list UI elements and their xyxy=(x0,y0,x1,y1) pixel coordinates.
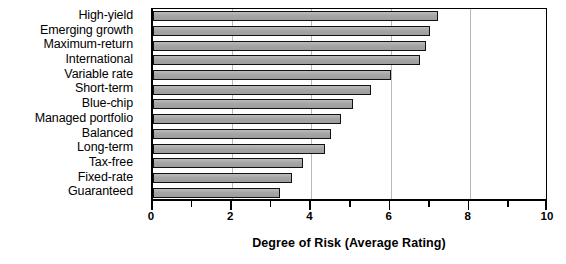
x-tick-major xyxy=(309,201,311,210)
category-label: Guaranteed xyxy=(0,184,141,199)
bar-row xyxy=(153,156,546,171)
category-label: Emerging growth xyxy=(0,23,141,38)
bar-row xyxy=(153,68,546,83)
plot-area xyxy=(151,8,547,201)
x-tick-minor xyxy=(507,201,509,207)
bar-row xyxy=(153,24,546,39)
bar xyxy=(153,85,371,95)
bar xyxy=(153,114,341,124)
category-label: Blue-chip xyxy=(0,96,141,111)
category-axis-labels: High-yieldEmerging growthMaximum-returnI… xyxy=(0,8,141,199)
x-tick-major xyxy=(389,201,391,210)
bar-row xyxy=(153,141,546,156)
bar xyxy=(153,55,420,65)
bar-row xyxy=(153,97,546,112)
horizontal-bar-chart: High-yieldEmerging growthMaximum-returnI… xyxy=(0,0,566,264)
x-tick-label: 6 xyxy=(385,210,391,222)
bar-row xyxy=(153,82,546,97)
bar xyxy=(153,26,430,36)
bar-series xyxy=(153,9,546,199)
x-tick-major xyxy=(230,201,232,210)
x-tick-label: 10 xyxy=(541,210,554,222)
x-axis-tick-labels: 0246810 xyxy=(151,210,547,226)
bar-row xyxy=(153,9,546,24)
x-tick-minor xyxy=(270,201,272,207)
bar xyxy=(153,70,391,80)
bar-row xyxy=(153,127,546,142)
x-tick-major xyxy=(468,201,470,210)
bar-row xyxy=(153,53,546,68)
category-label: Tax-free xyxy=(0,155,141,170)
category-label: International xyxy=(0,52,141,67)
x-tick-major xyxy=(545,201,547,210)
bar-row xyxy=(153,112,546,127)
bar-row xyxy=(153,38,546,53)
bar-row xyxy=(153,171,546,186)
x-tick-label: 0 xyxy=(148,210,154,222)
bar xyxy=(153,158,303,168)
x-tick-major xyxy=(151,201,153,210)
x-tick-minor xyxy=(428,201,430,207)
category-label: Variable rate xyxy=(0,67,141,82)
category-label: Fixed-rate xyxy=(0,170,141,185)
category-label: High-yield xyxy=(0,8,141,23)
x-tick-label: 8 xyxy=(465,210,471,222)
bar xyxy=(153,188,280,198)
bar xyxy=(153,144,325,154)
x-axis-title: Degree of Risk (Average Rating) xyxy=(151,236,547,250)
bar xyxy=(153,173,292,183)
category-label: Short-term xyxy=(0,81,141,96)
category-label: Long-term xyxy=(0,140,141,155)
category-label: Managed portfolio xyxy=(0,111,141,126)
category-label: Balanced xyxy=(0,126,141,141)
bar xyxy=(153,11,438,21)
bar xyxy=(153,99,353,109)
category-label: Maximum-return xyxy=(0,37,141,52)
bar xyxy=(153,41,426,51)
x-tick-minor xyxy=(191,201,193,207)
x-tick-label: 4 xyxy=(306,210,312,222)
x-tick-minor xyxy=(349,201,351,207)
x-tick-label: 2 xyxy=(227,210,233,222)
bar xyxy=(153,129,331,139)
bar-row xyxy=(153,185,546,200)
